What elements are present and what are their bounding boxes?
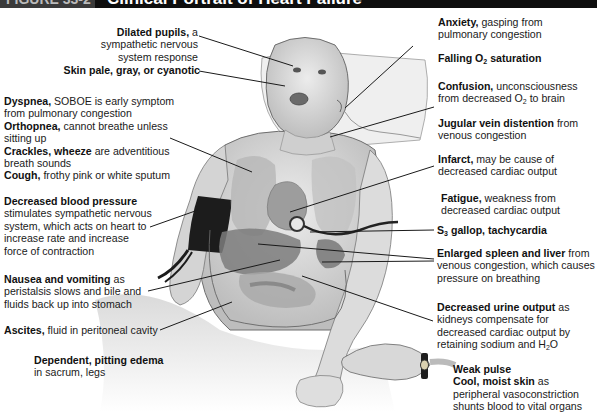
- label-bold: Cough,: [4, 169, 40, 181]
- label-spleen-liver: Enlarged spleen and liver from venous co…: [437, 247, 595, 284]
- label-cough: Cough, frothy pink or white sputum: [4, 169, 176, 181]
- label-bold: Fatigue,: [441, 192, 482, 204]
- label-text: O: [550, 338, 558, 350]
- label-bold: Crackles, wheeze: [4, 145, 92, 157]
- label-anxiety: Anxiety, gasping from pulmonary congesti…: [438, 16, 593, 41]
- label-cool-skin: Cool, moist skin as peripheral vasoconst…: [453, 375, 597, 412]
- label-jvd: Jugular vein distention from venous cong…: [438, 117, 593, 142]
- label-bold: Dyspnea,: [4, 95, 51, 107]
- label-text: to brain: [527, 92, 565, 104]
- label-bold: Infarct,: [438, 153, 473, 165]
- label-bold: gallop, tachycardia: [448, 224, 547, 236]
- label-bold: Dilated pupils,: [117, 26, 189, 38]
- label-weak-pulse: Weak pulse: [453, 363, 597, 375]
- label-bold: Orthopnea,: [4, 120, 61, 132]
- label-orthopnea: Orthopnea, cannot breathe unless sitting…: [4, 120, 176, 145]
- label-skin-pale: Skin pale, gray, or cyanotic: [40, 64, 200, 76]
- label-text: stimulates sympathetic nervous system, w…: [4, 207, 152, 256]
- label-s3-gallop: S3 gallop, tachycardia: [437, 224, 592, 236]
- label-bold: Anxiety,: [438, 16, 478, 28]
- label-bold: Cool, moist skin: [453, 375, 535, 387]
- label-bold: Jugular vein distention: [438, 117, 554, 129]
- label-bold: Nausea and vomiting: [4, 273, 111, 285]
- label-bold: Decreased urine output: [437, 301, 555, 313]
- label-dyspnea: Dyspnea, SOBOE is early symptom from pul…: [4, 95, 176, 120]
- label-urine: Decreased urine output as kidneys compen…: [437, 301, 592, 351]
- label-infarct: Infarct, may be cause of decreased cardi…: [438, 153, 593, 178]
- label-confusion: Confusion, unconsciousness from decrease…: [438, 80, 593, 105]
- label-text: fluid in peritoneal cavity: [45, 324, 158, 336]
- label-bold: Ascites,: [4, 324, 45, 336]
- label-bold: Falling O: [438, 52, 483, 64]
- label-bold: Confusion,: [438, 80, 493, 92]
- wristwatch: [421, 353, 429, 379]
- label-bold: saturation: [487, 52, 541, 64]
- label-bold: Enlarged spleen and liver: [437, 247, 565, 259]
- label-text: in sacrum, legs: [34, 366, 105, 378]
- label-nausea: Nausea and vomiting as peristalsis slows…: [4, 273, 149, 310]
- label-falling-o2: Falling O2 saturation: [438, 52, 593, 64]
- label-ascites: Ascites, fluid in peritoneal cavity: [4, 324, 164, 336]
- patient-hand: [296, 375, 343, 406]
- label-bold: Decreased blood pressure: [4, 195, 137, 207]
- label-decreased-bp: Decreased blood pressurestimulates sympa…: [4, 195, 154, 257]
- label-crackles: Crackles, wheeze are adventitious breath…: [4, 145, 176, 170]
- label-bold: Weak pulse: [453, 363, 511, 375]
- label-fatigue: Fatigue, weakness from decreased cardiac…: [441, 192, 591, 217]
- label-bold: Skin pale, gray, or cyanotic: [64, 64, 200, 76]
- label-bold: Dependent, pitting edema: [34, 354, 164, 366]
- label-respiratory-group: Dyspnea, SOBOE is early symptom from pul…: [4, 95, 176, 182]
- head: [266, 38, 348, 141]
- label-edema: Dependent, pitting edemain sacrum, legs: [34, 354, 184, 379]
- label-text: frothy pink or white sputum: [40, 169, 170, 181]
- label-pulse-skin: Weak pulse Cool, moist skin as periphera…: [453, 363, 597, 412]
- label-dilated-pupils: Dilated pupils, a sympathetic nervous sy…: [70, 26, 198, 63]
